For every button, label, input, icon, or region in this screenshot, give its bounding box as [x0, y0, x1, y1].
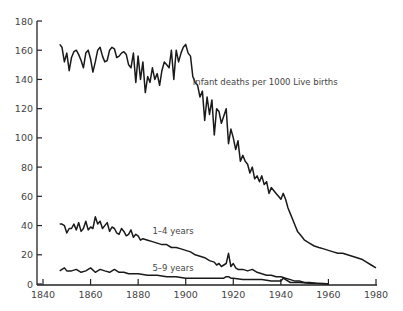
- y-tick-label: 60: [21, 191, 33, 202]
- x-tick-label: 1920: [221, 289, 245, 300]
- y-tick-label: 100: [15, 132, 33, 143]
- y-tick-label: 80: [21, 162, 33, 173]
- y-tick-label: 120: [15, 103, 33, 114]
- series-line-2: [60, 268, 329, 284]
- annotation-label-2: 5–9 years: [152, 263, 194, 273]
- y-tick-label: 40: [21, 220, 33, 231]
- x-tick-label: 1960: [316, 289, 340, 300]
- x-tick-label: 1940: [269, 289, 293, 300]
- series-line-1: [60, 217, 329, 284]
- y-tick-label: 20: [21, 249, 33, 260]
- x-tick-label: 1980: [364, 289, 388, 300]
- x-tick-label: 1880: [126, 289, 150, 300]
- annotation-label-0: Infant deaths per 1000 Live births: [193, 77, 338, 87]
- y-tick-label: 140: [15, 74, 33, 85]
- y-tick-label: 160: [15, 45, 33, 56]
- x-tick-label: 1860: [78, 289, 102, 300]
- mortality-line-chart: 0204060801001201401601801840186018801900…: [0, 0, 403, 311]
- x-tick-label: 1900: [174, 289, 198, 300]
- annotation-label-1: 1–4 years: [152, 226, 194, 236]
- y-tick-label: 180: [15, 16, 33, 27]
- x-tick-label: 1840: [31, 289, 55, 300]
- y-tick-label: 0: [27, 279, 33, 290]
